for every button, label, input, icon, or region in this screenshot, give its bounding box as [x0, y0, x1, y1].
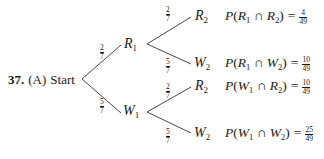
prob-r1-r2: 2 7: [166, 6, 170, 22]
formula-p: P: [225, 125, 233, 140]
node-subscript: 1: [135, 110, 140, 120]
formula-p: P: [225, 55, 233, 70]
equals-sign: =: [288, 8, 296, 23]
fraction-numerator: 2: [166, 83, 170, 90]
start-label: Start: [50, 72, 75, 87]
node-letter: R: [124, 36, 133, 51]
formula-a-sub: 1: [249, 132, 253, 142]
formula-b-sub: 2: [278, 62, 282, 72]
intersection-symbol: ∩: [257, 125, 267, 140]
formula-result: 449: [299, 9, 307, 25]
formula-w1-w2: P(W1 ∩ W2)=2549: [225, 125, 313, 142]
formula-b: W: [270, 125, 281, 140]
formula-b-sub: 2: [278, 85, 282, 95]
formula-a: W: [238, 125, 249, 140]
fraction-denominator: 49: [299, 18, 307, 25]
prob-start-r1: 2 7: [100, 44, 104, 60]
fraction-denominator: 7: [100, 107, 104, 114]
fraction-numerator: 2: [166, 6, 170, 13]
problem-label: 37. (A) Start: [8, 70, 75, 88]
fraction-denominator: 49: [302, 88, 310, 95]
fraction-numerator: 10: [302, 56, 310, 63]
fraction-numerator: 5: [100, 98, 104, 105]
node-r1-r2: R2: [195, 8, 208, 25]
fraction-numerator: 10: [302, 79, 310, 86]
prob-w1-r2: 2 7: [166, 83, 170, 99]
node-letter: R: [195, 8, 204, 23]
problem-number: 37.: [8, 72, 24, 87]
node-subscript: 2: [204, 15, 209, 25]
formula-b: R: [267, 8, 275, 23]
node-w1: W1: [123, 103, 139, 120]
formula-result: 1049: [302, 79, 310, 95]
fraction-denominator: 7: [166, 92, 170, 99]
node-r1-w2: W2: [194, 55, 210, 72]
formula-a-sub: 1: [249, 85, 253, 95]
node-letter: R: [195, 78, 204, 93]
fraction-denominator: 7: [166, 137, 170, 144]
intersection-symbol: ∩: [257, 78, 267, 93]
node-subscript: 2: [206, 62, 211, 72]
formula-a: R: [238, 8, 246, 23]
formula-w1-r2: P(W1 ∩ R2)=1049: [225, 78, 310, 95]
formula-b-sub: 2: [275, 15, 279, 25]
fraction-numerator: 4: [301, 9, 305, 16]
node-w1-w2: W2: [194, 125, 210, 142]
formula-r1-w2: P(R1 ∩ W2)=1049: [225, 55, 310, 72]
formula-b: W: [267, 55, 278, 70]
formula-a-sub: 1: [246, 15, 250, 25]
formula-p: P: [225, 8, 233, 23]
fraction-numerator: 5: [166, 58, 170, 65]
node-letter: W: [194, 55, 206, 70]
intersection-symbol: ∩: [254, 8, 264, 23]
intersection-symbol: ∩: [254, 55, 264, 70]
equals-sign: =: [291, 78, 299, 93]
formula-p: P: [225, 78, 233, 93]
fraction-numerator: 2: [100, 44, 104, 51]
prob-start-w1: 5 7: [100, 98, 104, 114]
formula-r1-r2: P(R1 ∩ R2)=449: [225, 8, 307, 25]
fraction-denominator: 49: [302, 65, 310, 72]
node-subscript: 1: [133, 43, 138, 53]
fraction-denominator: 7: [100, 53, 104, 60]
node-subscript: 2: [204, 85, 209, 95]
formula-b: R: [270, 78, 278, 93]
formula-a-sub: 1: [246, 62, 250, 72]
prob-w1-w2: 5 7: [166, 128, 170, 144]
fraction-denominator: 7: [166, 15, 170, 22]
equals-sign: =: [291, 55, 299, 70]
fraction-denominator: 7: [166, 67, 170, 74]
node-r1: R1: [124, 36, 137, 53]
fraction-numerator: 25: [305, 126, 313, 133]
formula-result: 1049: [302, 56, 310, 72]
formula-a: W: [238, 78, 249, 93]
fraction-denominator: 49: [305, 135, 313, 142]
node-letter: W: [123, 103, 135, 118]
equals-sign: =: [294, 125, 302, 140]
prob-r1-w2: 5 7: [166, 58, 170, 74]
node-w1-r2: R2: [195, 78, 208, 95]
node-letter: W: [194, 125, 206, 140]
fraction-numerator: 5: [166, 128, 170, 135]
formula-b-sub: 2: [281, 132, 285, 142]
formula-result: 2549: [305, 126, 313, 142]
problem-part: (A): [28, 72, 46, 87]
formula-a: R: [238, 55, 246, 70]
node-subscript: 2: [206, 132, 211, 142]
